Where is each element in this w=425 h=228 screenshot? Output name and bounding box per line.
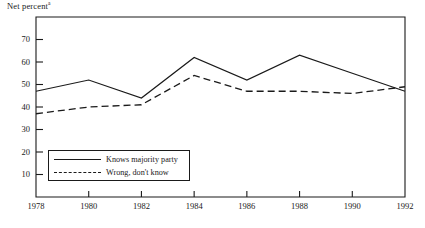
legend-swatch-solid-line-icon	[54, 155, 101, 164]
y-axis-tick-label: 70	[10, 34, 30, 44]
x-axis-tick-label: 1984	[177, 201, 211, 211]
y-axis-ticks	[36, 40, 43, 175]
y-axis-tick-label: 60	[10, 57, 30, 67]
net-percent-line-chart: Net percenta 10203040506070 197819801982…	[0, 0, 425, 228]
y-axis-tick-label: 10	[10, 169, 30, 179]
series-line-0	[36, 55, 405, 98]
y-axis-tick-label: 50	[10, 79, 30, 89]
plot-area	[0, 0, 425, 228]
x-axis-tick-label: 1992	[388, 201, 422, 211]
y-axis-tick-label: 20	[10, 147, 30, 157]
chart-legend: Knows majority party Wrong, don't know	[48, 150, 190, 181]
legend-swatch-dashed-line-icon	[54, 168, 101, 177]
y-axis-tick-label: 30	[10, 124, 30, 134]
data-series-group	[36, 55, 405, 114]
x-axis-tick-label: 1982	[124, 201, 158, 211]
legend-label-0: Knows majority party	[106, 155, 178, 164]
legend-item-knows-majority-party: Knows majority party	[54, 153, 178, 166]
legend-label-1: Wrong, don't know	[106, 168, 169, 177]
x-axis-tick-label: 1978	[19, 201, 53, 211]
x-axis-ticks	[89, 191, 353, 197]
legend-item-wrong-dont-know: Wrong, don't know	[54, 166, 169, 179]
x-axis-tick-label: 1990	[335, 201, 369, 211]
x-axis-tick-label: 1988	[283, 201, 317, 211]
x-axis-tick-label: 1986	[230, 201, 264, 211]
y-axis-tick-label: 40	[10, 102, 30, 112]
x-axis-tick-label: 1980	[72, 201, 106, 211]
